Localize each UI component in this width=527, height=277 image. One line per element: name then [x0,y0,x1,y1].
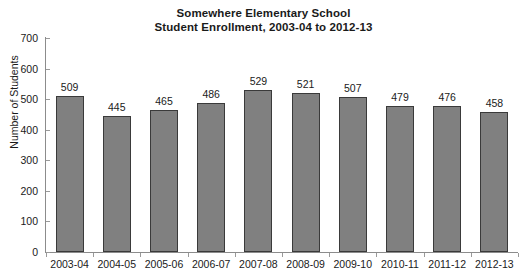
x-axis-tick-mark [282,253,283,257]
x-axis-tick-mark [329,253,330,257]
bar[interactable] [433,106,461,252]
bar-value-label: 445 [93,101,141,113]
x-axis-category-label: 2007-08 [232,258,284,270]
bar-value-label: 458 [470,97,518,109]
bar[interactable] [197,103,225,252]
y-axis-tick-label: 400 [0,124,38,136]
x-axis-tick-mark [424,253,425,257]
bar[interactable] [56,96,84,252]
plot-area [46,38,518,252]
y-axis-tick-label: 500 [0,93,38,105]
x-axis-tick-mark [518,253,519,257]
x-axis-tick-mark [188,253,189,257]
x-axis-category-label: 2003-04 [44,258,96,270]
x-axis-category-label: 2005-06 [138,258,190,270]
x-axis-category-label: 2011-12 [421,258,473,270]
bar-value-label: 507 [329,82,377,94]
x-axis-tick-mark [46,253,47,257]
y-axis-tick-label: 300 [0,154,38,166]
bar[interactable] [339,97,367,252]
chart-title: Somewhere Elementary School Student Enro… [0,6,527,34]
x-axis-tick-mark [235,253,236,257]
y-axis-tick-label: 700 [0,32,38,44]
bar-value-label: 486 [187,88,235,100]
x-axis-category-label: 2010-11 [374,258,426,270]
bar[interactable] [103,116,131,252]
x-axis-tick-mark [140,253,141,257]
y-axis-tick-label: 600 [0,63,38,75]
bar[interactable] [292,93,320,252]
x-axis-category-label: 2012-13 [468,258,520,270]
x-axis-tick-mark [376,253,377,257]
bar[interactable] [386,106,414,252]
bar[interactable] [244,90,272,252]
x-axis-category-label: 2004-05 [91,258,143,270]
y-axis-tick-label: 0 [0,246,38,258]
chart-title-line-1: Somewhere Elementary School [0,6,527,20]
x-axis-category-label: 2006-07 [185,258,237,270]
bar[interactable] [480,112,508,252]
x-axis-tick-mark [93,253,94,257]
bar-value-label: 479 [376,91,424,103]
bar-value-label: 465 [140,95,188,107]
bar[interactable] [150,110,178,252]
bar-value-label: 529 [234,75,282,87]
y-axis-tick-label: 200 [0,185,38,197]
bar-value-label: 509 [46,81,94,93]
x-axis-category-label: 2008-09 [280,258,332,270]
x-axis-tick-mark [471,253,472,257]
bar-value-label: 521 [282,78,330,90]
x-axis-category-label: 2009-10 [327,258,379,270]
y-axis-tick-label: 100 [0,215,38,227]
bar-value-label: 476 [423,91,471,103]
chart-title-line-2: Student Enrollment, 2003-04 to 2012-13 [0,20,527,34]
